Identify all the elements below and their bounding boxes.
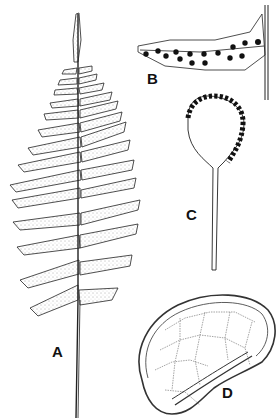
panel-label-c: C	[186, 206, 197, 223]
panel-label-a: A	[52, 343, 63, 360]
panel-label-b: B	[147, 70, 158, 87]
sporangium-drawing	[188, 96, 244, 270]
botanical-illustration	[0, 0, 277, 418]
spore-drawing	[139, 295, 275, 414]
fern-frond-drawing	[10, 13, 140, 418]
panel-label-d: D	[222, 384, 233, 401]
